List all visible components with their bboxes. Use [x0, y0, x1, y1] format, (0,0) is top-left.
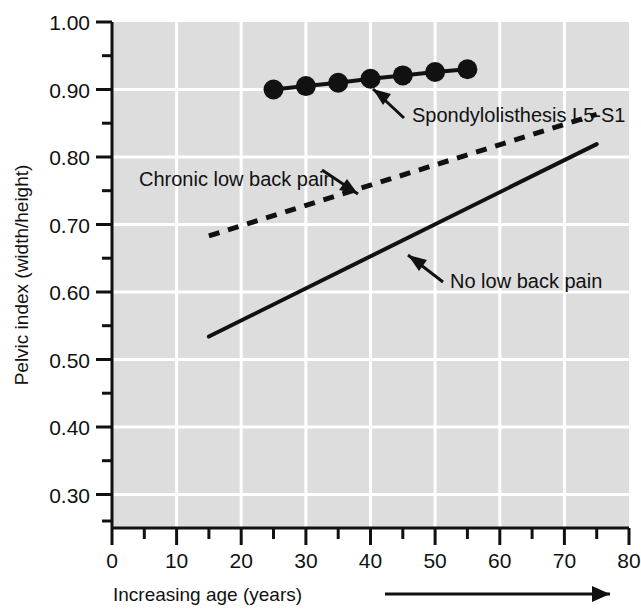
y-tick-label: 0.70 — [49, 214, 90, 237]
data-point-marker — [457, 59, 477, 79]
data-point-marker — [264, 80, 284, 100]
y-tick-label: 0.80 — [49, 146, 90, 169]
x-axis-tick-labels: 0 10 20 30 40 50 60 70 80 — [106, 549, 641, 572]
x-axis-major-ticks — [112, 528, 629, 545]
data-point-marker — [425, 62, 445, 82]
x-tick-label: 70 — [553, 549, 576, 572]
data-point-marker — [393, 65, 413, 85]
y-tick-label: 0.50 — [49, 349, 90, 372]
data-point-marker — [361, 69, 381, 89]
no-low-back-pain-annotation-label: No low back pain — [450, 270, 602, 292]
data-point-marker — [328, 73, 348, 93]
increasing-age-arrow — [385, 586, 610, 602]
chronic-low-back-pain-annotation-label: Chronic low back pain — [139, 168, 335, 190]
x-tick-label: 80 — [617, 549, 640, 572]
y-tick-label: 1.00 — [49, 11, 90, 34]
x-tick-label: 0 — [106, 549, 118, 572]
y-tick-label: 0.60 — [49, 281, 90, 304]
spondylolisthesis-annotation-label: Spondylolisthesis L5-S1 — [412, 104, 625, 126]
x-tick-label: 30 — [294, 549, 317, 572]
y-tick-label: 0.30 — [49, 484, 90, 507]
x-tick-label: 40 — [359, 549, 382, 572]
x-tick-label: 60 — [488, 549, 511, 572]
x-axis-title: Increasing age (years) — [113, 584, 302, 605]
y-tick-label: 0.40 — [49, 416, 90, 439]
y-axis-tick-labels: 1.00 0.90 0.80 0.70 0.60 0.50 0.40 0.30 — [49, 11, 90, 507]
chart-figure: 1.00 0.90 0.80 0.70 0.60 0.50 0.40 0.30 — [0, 0, 641, 609]
x-tick-label: 20 — [230, 549, 253, 572]
x-tick-label: 50 — [423, 549, 446, 572]
data-point-marker — [296, 76, 316, 96]
x-tick-label: 10 — [165, 549, 188, 572]
y-tick-label: 0.90 — [49, 79, 90, 102]
y-axis-title: Pelvic index (width/height) — [11, 165, 32, 386]
